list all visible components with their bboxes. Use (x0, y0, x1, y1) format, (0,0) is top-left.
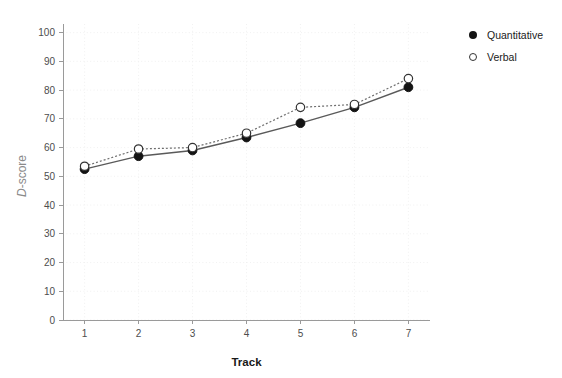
y-tick-label: 10 (44, 286, 56, 297)
filled-circle-icon (466, 28, 480, 42)
grid-lines (63, 24, 430, 320)
y-tick-label: 50 (44, 171, 56, 182)
x-tick-label: 1 (82, 328, 88, 339)
data-point-verbal-track-2 (134, 145, 142, 153)
x-tick-label: 4 (244, 328, 250, 339)
y-tick-label: 40 (44, 200, 56, 211)
legend-label-quantitative: Quantitative (487, 29, 543, 41)
x-axis-title: Track (231, 356, 262, 368)
y-tick-label: 20 (44, 257, 56, 268)
legend-label-verbal: Verbal (487, 51, 517, 63)
x-tick-label: 6 (352, 328, 358, 339)
y-axis-title: D-score (15, 155, 29, 197)
open-circle-icon (466, 50, 480, 64)
y-tick-label: 70 (44, 113, 56, 124)
legend-item-quantitative: Quantitative (466, 24, 562, 46)
y-tick-label: 90 (44, 56, 56, 67)
data-point-verbal-track-5 (296, 103, 304, 111)
y-tick-label: 30 (44, 228, 56, 239)
data-point-quantitative-track-5 (296, 119, 305, 128)
data-point-verbal-track-4 (242, 129, 250, 137)
x-tick-label: 5 (298, 328, 304, 339)
series-line-verbal (85, 79, 409, 167)
chart-legend: Quantitative Verbal (466, 24, 562, 68)
data-point-verbal-track-3 (188, 143, 196, 151)
y-tick-labels: 0102030405060708090100 (38, 27, 55, 325)
tick-marks (59, 33, 408, 324)
data-point-verbal-track-7 (404, 74, 412, 82)
data-point-verbal-track-1 (80, 162, 88, 170)
y-tick-label: 100 (38, 27, 55, 38)
y-tick-label: 60 (44, 142, 56, 153)
x-tick-label: 2 (136, 328, 142, 339)
y-tick-label: 0 (49, 315, 55, 326)
y-tick-label: 80 (44, 85, 56, 96)
legend-item-verbal: Verbal (466, 46, 562, 68)
x-tick-labels: 1234567 (82, 328, 412, 339)
x-tick-label: 7 (406, 328, 412, 339)
chart-container: 0102030405060708090100 1234567 Track D-s… (0, 0, 562, 378)
data-point-verbal-track-6 (350, 100, 358, 108)
data-point-quantitative-track-7 (404, 83, 413, 92)
x-tick-label: 3 (190, 328, 196, 339)
